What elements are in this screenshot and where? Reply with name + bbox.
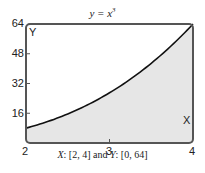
y-tick-48: 48 (12, 47, 24, 59)
area-fill (26, 24, 193, 143)
range-caption: X: [2, 4] and Y: [0, 64] (0, 149, 205, 160)
x-axis-label: X (183, 114, 190, 126)
y-axis-label: Y (29, 26, 36, 38)
y-tick-32: 32 (12, 77, 24, 89)
y-tick-64: 64 (12, 17, 24, 29)
y-tick-16: 16 (12, 107, 24, 119)
